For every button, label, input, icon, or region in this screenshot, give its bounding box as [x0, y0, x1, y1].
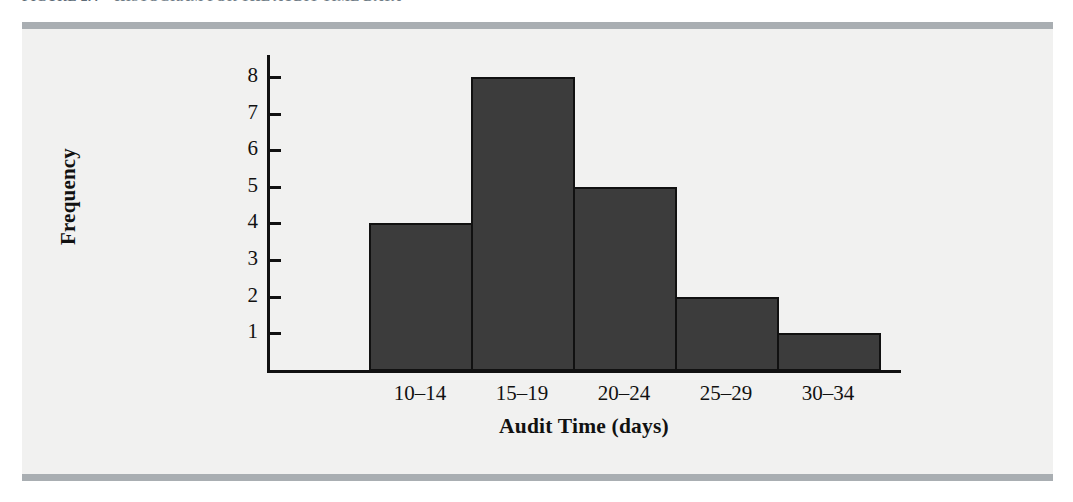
y-axis-tick: [270, 296, 281, 299]
y-axis-tick-label: 3: [234, 246, 258, 271]
top-rule: [22, 22, 1053, 29]
y-axis-tick: [270, 149, 281, 152]
y-axis-tick-label: 1: [234, 319, 258, 344]
figure-caption: FIGURE 2.4HISTOGRAM FOR THE AUDIT TIME D…: [22, 0, 1022, 9]
y-axis-tick-label: 5: [234, 173, 258, 198]
y-axis-tick: [270, 259, 281, 262]
y-axis-line: [267, 55, 270, 373]
bottom-rule: [22, 474, 1053, 481]
y-axis-tick: [270, 222, 281, 225]
chart-panel: Frequency Audit Time (days) 1234567810–1…: [22, 29, 1053, 474]
histogram-bar: [471, 77, 575, 371]
y-axis-tick-label: 4: [234, 209, 258, 234]
y-axis-tick: [270, 332, 281, 335]
figure-number: FIGURE 2.4: [22, 0, 99, 4]
y-axis-tick-label: 8: [234, 63, 258, 88]
histogram-bar: [777, 333, 881, 371]
y-axis-tick-label: 7: [234, 100, 258, 125]
x-axis-title: Audit Time (days): [267, 414, 901, 439]
y-axis-tick: [270, 113, 281, 116]
histogram-bar: [369, 223, 473, 371]
y-axis-title: Frequency: [56, 117, 81, 277]
y-axis-tick: [270, 76, 281, 79]
histogram-chart: Frequency Audit Time (days) 1234567810–1…: [22, 29, 1053, 474]
histogram-bar: [675, 297, 779, 371]
figure-title: HISTOGRAM FOR THE AUDIT TIME DATA: [115, 0, 402, 4]
y-axis-tick: [270, 186, 281, 189]
y-axis-tick-label: 2: [234, 283, 258, 308]
y-axis-tick-label: 6: [234, 136, 258, 161]
histogram-bar: [573, 187, 677, 371]
x-axis-tick-label: 30–34: [768, 381, 888, 406]
figure-page: FIGURE 2.4HISTOGRAM FOR THE AUDIT TIME D…: [0, 0, 1073, 502]
